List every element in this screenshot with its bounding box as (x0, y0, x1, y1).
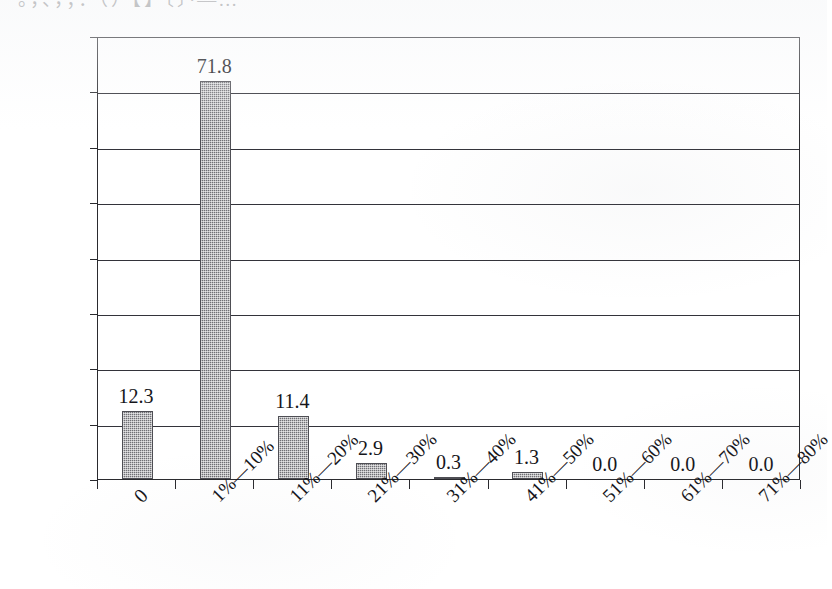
plot-area (97, 37, 800, 480)
x-axis-tick (722, 480, 723, 489)
bar-value-label: 12.3 (119, 386, 154, 406)
bar (200, 81, 231, 479)
x-axis-tick (409, 480, 410, 489)
x-axis-tick (488, 480, 489, 489)
y-axis-tick (90, 259, 97, 260)
bar-value-label: 0.0 (748, 454, 773, 474)
x-axis-tick (800, 480, 801, 489)
x-axis-tick (644, 480, 645, 489)
y-axis-tick (90, 148, 97, 149)
bar (122, 411, 153, 479)
bar-value-label: 0.0 (670, 454, 695, 474)
y-axis-tick (90, 203, 97, 204)
x-axis-tick (253, 480, 254, 489)
y-axis-tick (90, 425, 97, 426)
clipped-text-line-top: 。，、，；：（）【】〔〕·—… (18, 0, 808, 9)
x-axis-tick (566, 480, 567, 489)
bar-value-label: 2.9 (358, 438, 383, 458)
bar-value-label: 11.4 (275, 391, 309, 411)
clipped-text-glyphs: 。，、，；：（）【】〔〕·—… (18, 0, 808, 9)
y-axis-tick (90, 369, 97, 370)
y-axis-tick (90, 314, 97, 315)
x-axis-category-label: 0 (130, 485, 151, 506)
y-axis-tick (90, 37, 97, 38)
bar (278, 416, 309, 479)
bar-value-label: 0.0 (592, 454, 617, 474)
x-axis-tick (175, 480, 176, 489)
y-axis-tick (90, 480, 97, 481)
bar-value-label: 0.3 (436, 452, 461, 472)
bar-value-label: 1.3 (514, 447, 539, 467)
x-axis-tick (97, 480, 98, 489)
x-axis-tick (331, 480, 332, 489)
y-axis-tick (90, 92, 97, 93)
bar-value-label: 71.8 (197, 56, 232, 76)
